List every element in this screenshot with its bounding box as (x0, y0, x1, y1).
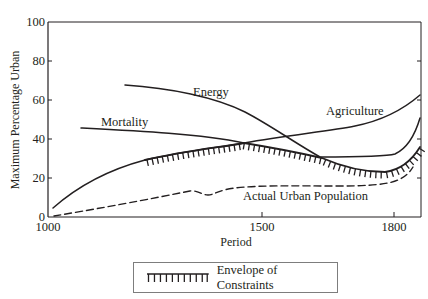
chart: 0 20 40 60 80 100 1000 1500 1800 Period … (0, 0, 428, 299)
mortality-curve (81, 128, 244, 143)
agriculture-label: Agriculture (326, 104, 384, 118)
y-tick-60: 60 (33, 93, 46, 107)
x-tick-labels: 1000 1500 1800 (36, 220, 407, 234)
y-tick-20: 20 (33, 171, 46, 185)
y-tick-40: 40 (33, 132, 46, 146)
envelope-hatch-marks (147, 143, 425, 178)
x-axis-title: Period (220, 235, 251, 249)
energy-label: Energy (193, 85, 230, 99)
x-tick-1800: 1800 (382, 220, 407, 234)
mortality-label: Mortality (101, 115, 149, 129)
x-tick-1500: 1500 (250, 220, 275, 234)
x-tick-1000: 1000 (36, 220, 61, 234)
envelope-legend-swatch-icon (147, 273, 209, 283)
actual-urban-population-label: Actual Urban Population (243, 189, 369, 203)
legend: Envelope of Constraints (133, 262, 338, 293)
x-axis-ticks (262, 212, 394, 217)
y-tick-labels: 0 20 40 60 80 100 (26, 15, 45, 224)
y-axis-title: Maximum Percentage Urban (8, 51, 22, 190)
y-tick-100: 100 (26, 15, 45, 29)
y-tick-80: 80 (33, 54, 46, 68)
legend-label: Envelope of Constraints (217, 263, 337, 293)
envelope-curve (145, 143, 420, 172)
